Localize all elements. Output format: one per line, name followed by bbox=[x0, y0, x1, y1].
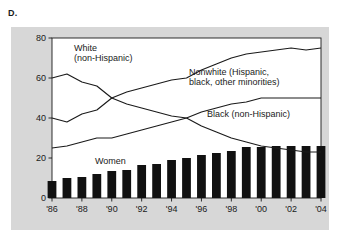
svg-text:'02: '02 bbox=[285, 204, 297, 214]
svg-text:black, other minorities): black, other minorities) bbox=[189, 77, 280, 87]
svg-text:'04: '04 bbox=[315, 204, 327, 214]
svg-text:Women: Women bbox=[95, 156, 126, 166]
svg-text:'98: '98 bbox=[225, 204, 237, 214]
svg-text:(non-Hispanic): (non-Hispanic) bbox=[74, 53, 133, 63]
plot-wrapper: Percent of AIDS cases Year 020406080 '86… bbox=[11, 27, 329, 230]
svg-text:20: 20 bbox=[36, 153, 46, 163]
svg-text:40: 40 bbox=[36, 113, 46, 123]
svg-text:White: White bbox=[74, 43, 97, 53]
panel-letter: D. bbox=[8, 8, 17, 18]
svg-text:'86: '86 bbox=[46, 204, 58, 214]
svg-text:Nonwhite (Hispanic,: Nonwhite (Hispanic, bbox=[189, 67, 269, 77]
svg-text:'88: '88 bbox=[76, 204, 88, 214]
svg-text:0: 0 bbox=[41, 193, 46, 203]
aids-cases-line-chart: 020406080 '86'88'90'92'94'96'98'00'02'04… bbox=[11, 27, 329, 230]
svg-text:'94: '94 bbox=[166, 204, 178, 214]
svg-text:80: 80 bbox=[36, 33, 46, 43]
svg-text:'96: '96 bbox=[196, 204, 208, 214]
svg-text:Black (non-Hispanic): Black (non-Hispanic) bbox=[207, 109, 290, 119]
figure-container: D. Percent of AIDS cases Year 020406080 … bbox=[0, 0, 341, 246]
svg-text:'00: '00 bbox=[255, 204, 267, 214]
svg-text:'92: '92 bbox=[136, 204, 148, 214]
svg-text:60: 60 bbox=[36, 73, 46, 83]
svg-text:'90: '90 bbox=[106, 204, 118, 214]
